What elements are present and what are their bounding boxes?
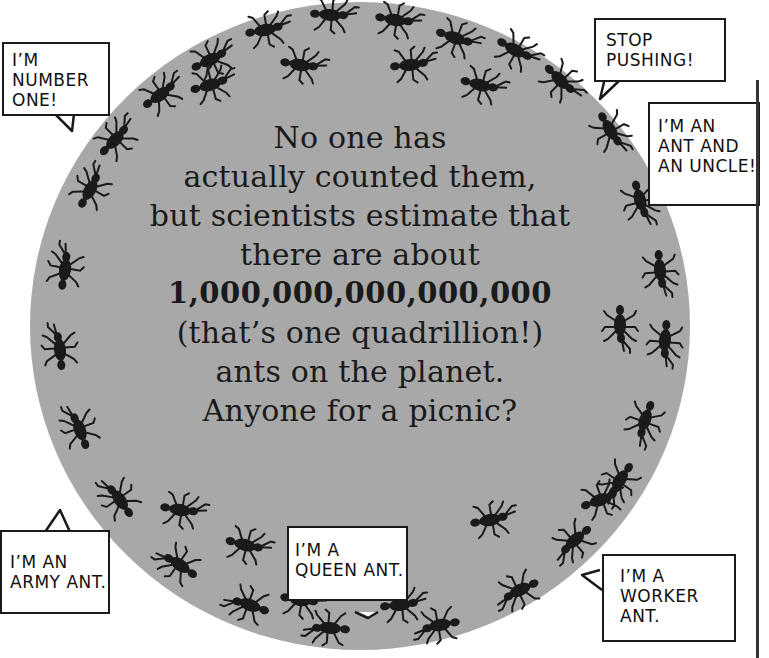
bubble-line: I’M A	[295, 540, 400, 560]
illustration-stage: No one has actually counted them, but sc…	[0, 0, 769, 658]
caption-line-7: ants on the planet.	[130, 352, 590, 391]
bubble-line: ONE!	[12, 90, 100, 110]
speech-bubble-army-ant: I’M AN ARMY ANT.	[0, 530, 110, 614]
page-edge-divider	[756, 80, 759, 658]
bubble-line: WORKER	[620, 586, 718, 606]
caption-line-3: but scientists estimate that	[130, 196, 590, 235]
bubble-line: NUMBER	[12, 70, 100, 90]
speech-bubble-worker-ant: I’M A WORKER ANT.	[602, 554, 736, 642]
caption-line-1: No one has	[130, 118, 590, 157]
quadrillion-number: 1,000,000,000,000,000	[130, 274, 590, 313]
speech-bubble-stop-pushing: STOP PUSHING!	[594, 18, 726, 82]
speech-bubble-queen-ant: I’M A QUEEN ANT.	[287, 526, 408, 601]
bubble-line: ANT.	[620, 606, 718, 626]
bubble-line: PUSHING!	[606, 50, 714, 70]
caption-line-2: actually counted them,	[130, 157, 590, 196]
bubble-line: AN UNCLE!	[658, 156, 750, 176]
caption-line-6: (that’s one quadrillion!)	[130, 313, 590, 352]
caption-line-8: Anyone for a picnic?	[130, 391, 590, 430]
bubble-line: I’M A	[620, 566, 718, 586]
bubble-line: STOP	[606, 30, 714, 50]
bubble-line: I’M AN	[10, 552, 100, 572]
speech-bubble-number-one: I’M NUMBER ONE!	[2, 42, 110, 116]
bubble-line: ARMY ANT.	[10, 572, 100, 592]
bubble-line: ANT AND	[658, 136, 750, 156]
bubble-line: I’M AN	[658, 116, 750, 136]
caption-line-4: there are about	[130, 235, 590, 274]
bubble-line: QUEEN ANT.	[295, 560, 400, 580]
bubble-line: I’M	[12, 50, 100, 70]
main-caption: No one has actually counted them, but sc…	[130, 118, 590, 430]
speech-bubble-ant-and-uncle: I’M AN ANT AND AN UNCLE!	[648, 102, 760, 206]
